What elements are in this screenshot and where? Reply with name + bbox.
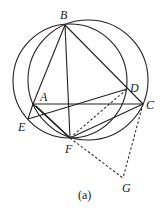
segment-fg-dashed: [70, 138, 123, 178]
segment-bf: [65, 25, 70, 138]
label-f: F: [64, 142, 73, 156]
label-a: A: [39, 90, 48, 104]
figure-caption: (a): [78, 188, 91, 202]
label-b: B: [60, 8, 68, 22]
label-d: D: [129, 81, 139, 95]
label-c: C: [146, 98, 155, 112]
segment-ea: [28, 104, 33, 119]
circle-bef: [13, 24, 127, 138]
segment-ef: [36, 106, 70, 138]
segment-ba: [33, 25, 65, 104]
label-e: E: [17, 120, 26, 134]
segment-cg-dashed: [123, 104, 143, 178]
geometry-figure: B A D C E F G (a): [0, 0, 165, 211]
label-g: G: [122, 181, 131, 195]
